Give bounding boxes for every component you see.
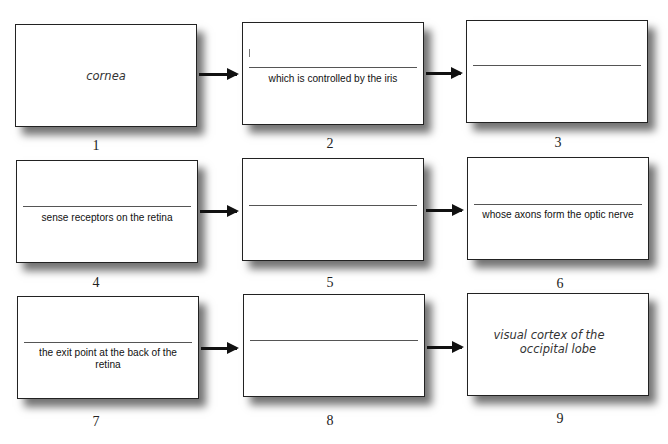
step-5-number: 5 [310, 275, 350, 291]
step-3-box [466, 20, 648, 123]
step-7-number: 7 [76, 414, 116, 430]
step-4-box: sense receptors on the retina [16, 160, 198, 263]
arrow-7-to-8 [201, 347, 237, 350]
step-6-box: whose axons form the optic nerve [467, 157, 649, 260]
step-9-box: visual cortex of the occipital lobe [467, 293, 649, 396]
step-5-box [242, 158, 424, 261]
step-9-label-line1: visual cortex of the [450, 328, 648, 342]
step-6-blank-line[interactable] [474, 204, 642, 205]
step-7-label: the exit point at the back of the retina [25, 346, 191, 370]
arrow-5-to-6 [426, 209, 462, 212]
step-2-blank-line[interactable] [249, 67, 417, 68]
arrow-8-to-9 [427, 346, 462, 349]
step-9-label-line2: occipital lobe [468, 342, 648, 356]
step-4-blank-line[interactable] [23, 206, 191, 207]
step-8-number: 8 [310, 413, 350, 429]
step-9-number: 9 [540, 411, 580, 427]
step-2-number: 2 [310, 136, 350, 152]
step-1-number: 1 [76, 138, 116, 154]
arrow-4-to-5 [200, 210, 237, 213]
text-cursor [249, 49, 250, 57]
step-1-label: cornea [16, 69, 196, 83]
arrow-1-to-2 [199, 73, 237, 76]
step-5-blank-line[interactable] [249, 205, 417, 206]
step-4-number: 4 [76, 275, 116, 291]
step-7-box: the exit point at the back of the retina [17, 296, 199, 399]
step-1-box: cornea [15, 24, 197, 127]
step-3-blank-line[interactable] [473, 65, 641, 66]
step-8-box [243, 294, 425, 397]
arrow-2-to-3 [426, 72, 461, 75]
step-2-box: which is controlled by the iris [242, 22, 424, 125]
step-6-number: 6 [540, 276, 580, 292]
step-7-blank-line[interactable] [24, 342, 192, 343]
step-4-label: sense receptors on the retina [24, 211, 190, 223]
step-6-label: whose axons form the optic nerve [475, 208, 641, 220]
step-3-number: 3 [538, 135, 578, 151]
step-2-label: which is controlled by the iris [250, 72, 416, 84]
step-8-blank-line[interactable] [250, 340, 418, 341]
